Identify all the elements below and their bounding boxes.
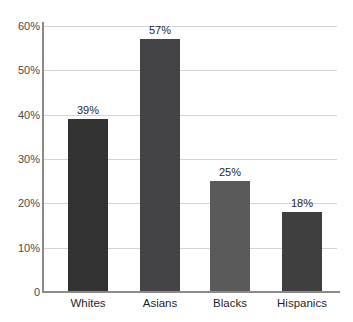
bar-value-label-hispanics: 18% — [272, 197, 332, 209]
y-tick-label-50: 50% — [2, 65, 40, 76]
bar-value-label-blacks: 25% — [200, 166, 260, 178]
y-tick-label-40: 40% — [2, 110, 40, 121]
y-tick-label-10: 10% — [2, 243, 40, 254]
plot-area — [43, 26, 337, 292]
y-tick-label-0: 0 — [2, 287, 40, 298]
bar-blacks — [210, 181, 250, 292]
x-axis-line — [43, 291, 340, 293]
gridline-50 — [43, 70, 337, 71]
bar-asians — [140, 39, 180, 292]
x-tick-label-hispanics: Hispanics — [259, 296, 345, 310]
bar-value-label-asians: 57% — [130, 24, 190, 36]
y-axis-tick-labels: 60% 50% 40% 30% 20% 10% 0 — [0, 0, 40, 322]
y-axis-line — [42, 22, 44, 293]
bar-hispanics — [282, 212, 322, 292]
bar-whites — [68, 119, 108, 292]
y-tick-label-30: 30% — [2, 154, 40, 165]
bar-value-label-whites: 39% — [58, 104, 118, 116]
y-tick-label-20: 20% — [2, 198, 40, 209]
bar-chart: 60% 50% 40% 30% 20% 10% 0 39% 57% 25% 18… — [0, 0, 353, 322]
gridline-60 — [43, 26, 337, 27]
y-tick-label-60: 60% — [2, 21, 40, 32]
